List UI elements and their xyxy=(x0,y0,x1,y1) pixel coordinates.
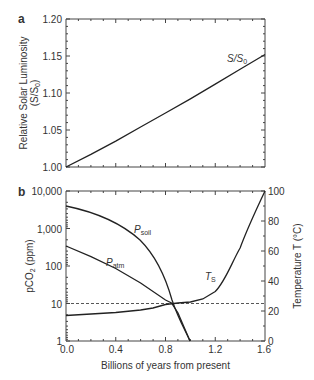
panel-a: a Relative Solar Luminosity (S/S0) 1.20 … xyxy=(18,12,265,173)
svg-text:10: 10 xyxy=(51,299,63,310)
panel-a-ylabel: Relative Solar Luminosity (S/S0) xyxy=(18,37,41,150)
svg-text:(S/S0): (S/S0) xyxy=(29,80,41,107)
svg-text:80: 80 xyxy=(268,216,280,227)
panel-b-ticks xyxy=(66,191,265,341)
panel-b-ytick-labels-right: 100 80 60 40 20 0 xyxy=(268,186,285,347)
svg-text:1.2: 1.2 xyxy=(208,344,222,355)
ss0-curve xyxy=(66,55,265,168)
svg-text:Temperature T (°C): Temperature T (°C) xyxy=(292,223,303,308)
svg-text:pCO2 (ppm): pCO2 (ppm) xyxy=(24,239,36,292)
psoil-curve xyxy=(66,206,190,341)
ts-curve xyxy=(66,191,265,316)
svg-text:Relative Solar Luminosity: Relative Solar Luminosity xyxy=(18,37,29,150)
panel-b-letter: b xyxy=(18,185,25,199)
panel-b-frame xyxy=(66,191,265,341)
panel-b-ylabel-left: pCO2 (ppm) xyxy=(24,239,36,292)
panel-b-ytick-labels-left: 10,000 1,000 100 10 1 xyxy=(31,186,62,347)
panel-a-frame xyxy=(66,19,265,167)
svg-text:100: 100 xyxy=(45,261,62,272)
patm-curve xyxy=(66,246,190,341)
psoil-label: Psoil xyxy=(134,224,152,236)
patm-label: Patm xyxy=(106,257,125,269)
panel-a-yticks xyxy=(66,19,265,167)
ts-label: TS xyxy=(205,271,216,283)
svg-text:1,000: 1,000 xyxy=(37,224,62,235)
ss0-curve-label: S/S0 xyxy=(227,53,247,65)
svg-text:10,000: 10,000 xyxy=(31,186,62,197)
svg-text:0.8: 0.8 xyxy=(159,344,173,355)
svg-text:1.15: 1.15 xyxy=(43,51,63,62)
svg-text:1.6: 1.6 xyxy=(257,344,271,355)
svg-text:60: 60 xyxy=(268,246,280,257)
panel-b-xlabel: Billions of years from present xyxy=(101,360,230,371)
svg-text:20: 20 xyxy=(268,306,280,317)
svg-text:1.10: 1.10 xyxy=(43,88,63,99)
svg-text:1.00: 1.00 xyxy=(43,162,63,173)
svg-text:0.4: 0.4 xyxy=(109,344,123,355)
panel-a-letter: a xyxy=(18,12,25,26)
svg-text:100: 100 xyxy=(268,186,285,197)
svg-text:40: 40 xyxy=(268,276,280,287)
svg-text:1.05: 1.05 xyxy=(43,125,63,136)
svg-text:0.0: 0.0 xyxy=(60,344,74,355)
figure: a Relative Solar Luminosity (S/S0) 1.20 … xyxy=(0,0,314,380)
panel-b-ylabel-right: Temperature T (°C) xyxy=(292,223,303,308)
panel-a-ytick-labels: 1.20 1.15 1.10 1.05 1.00 xyxy=(43,14,63,173)
svg-text:1.20: 1.20 xyxy=(43,14,63,25)
panel-b-xtick-labels: 0.0 0.4 0.8 1.2 1.6 xyxy=(60,344,271,355)
panel-b: b pCO2 (ppm) Temperature T (°C) 10,000 1… xyxy=(18,185,303,371)
